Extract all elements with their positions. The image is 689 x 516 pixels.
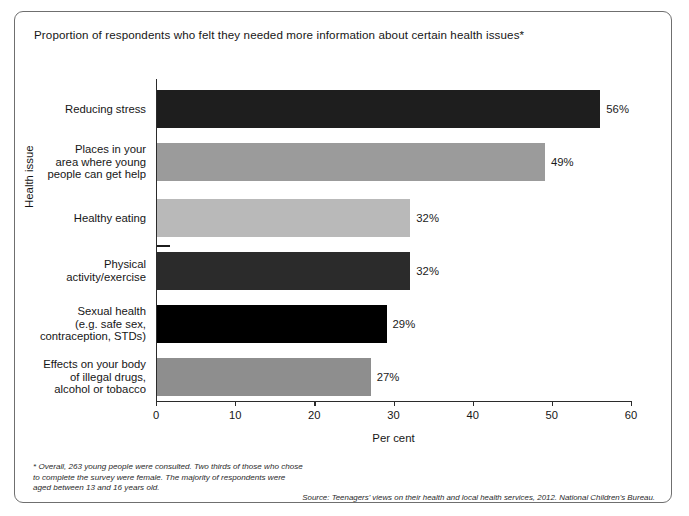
category-label: Healthy eating bbox=[74, 212, 146, 225]
bar-value-label: 49% bbox=[551, 156, 574, 168]
category-label: Physicalactivity/exercise bbox=[66, 258, 146, 283]
bar[interactable] bbox=[157, 143, 545, 181]
bar-row: Healthy eating32% bbox=[157, 199, 632, 237]
source-note: Source: Teenagers' views on their health… bbox=[302, 493, 655, 502]
bar-row: Sexual health(e.g. safe sex,contraceptio… bbox=[157, 305, 632, 343]
plot-area: Reducing stress56%Places in yourarea whe… bbox=[156, 79, 631, 401]
bar[interactable] bbox=[157, 305, 387, 343]
category-label: Effects on your bodyof illegal drugs,alc… bbox=[43, 358, 146, 396]
bar[interactable] bbox=[157, 358, 371, 396]
bar[interactable] bbox=[157, 199, 410, 237]
category-label: Reducing stress bbox=[65, 103, 146, 116]
x-axis-tick bbox=[156, 401, 157, 406]
x-axis-tick bbox=[473, 401, 474, 406]
x-axis-tick bbox=[394, 401, 395, 406]
bar-value-label: 27% bbox=[377, 371, 400, 383]
footnote-line: * Overall, 263 young people were consult… bbox=[33, 462, 363, 473]
x-axis-tick bbox=[552, 401, 553, 406]
category-label: Sexual health(e.g. safe sex,contraceptio… bbox=[40, 305, 146, 343]
chart-figure-frame: Proportion of respondents who felt they … bbox=[14, 11, 672, 503]
chart-title: Proportion of respondents who felt they … bbox=[34, 28, 524, 41]
bar-row: Places in yourarea where youngpeople can… bbox=[157, 143, 632, 181]
bar-value-label: 29% bbox=[393, 318, 416, 330]
x-axis-tick-label: 20 bbox=[308, 409, 320, 421]
footnote-line: to complete the survey were female. The … bbox=[33, 473, 363, 484]
bar-value-label: 56% bbox=[606, 103, 629, 115]
x-axis-tick bbox=[235, 401, 236, 406]
bar-row: Effects on your bodyof illegal drugs,alc… bbox=[157, 358, 632, 396]
category-label: Places in yourarea where youngpeople can… bbox=[47, 143, 146, 181]
bar-row: Physicalactivity/exercise32% bbox=[157, 252, 632, 290]
y-axis-title: Health issue bbox=[23, 145, 35, 208]
x-axis-tick bbox=[631, 401, 632, 406]
bar[interactable] bbox=[157, 90, 600, 128]
x-axis-tick-label: 60 bbox=[625, 409, 637, 421]
x-axis-tick-label: 10 bbox=[229, 409, 241, 421]
x-axis-title: Per cent bbox=[156, 432, 631, 444]
footnote: * Overall, 263 young people were consult… bbox=[33, 462, 363, 494]
y-axis-minor-tick bbox=[157, 245, 170, 247]
x-axis-tick-label: 0 bbox=[153, 409, 159, 421]
x-axis-tick-label: 30 bbox=[387, 409, 399, 421]
bar-value-label: 32% bbox=[416, 212, 439, 224]
x-axis-tick-label: 50 bbox=[546, 409, 558, 421]
bar[interactable] bbox=[157, 252, 410, 290]
bar-row: Reducing stress56% bbox=[157, 90, 632, 128]
x-axis-tick bbox=[314, 401, 315, 406]
x-axis-tick-label: 40 bbox=[466, 409, 478, 421]
bar-value-label: 32% bbox=[416, 265, 439, 277]
